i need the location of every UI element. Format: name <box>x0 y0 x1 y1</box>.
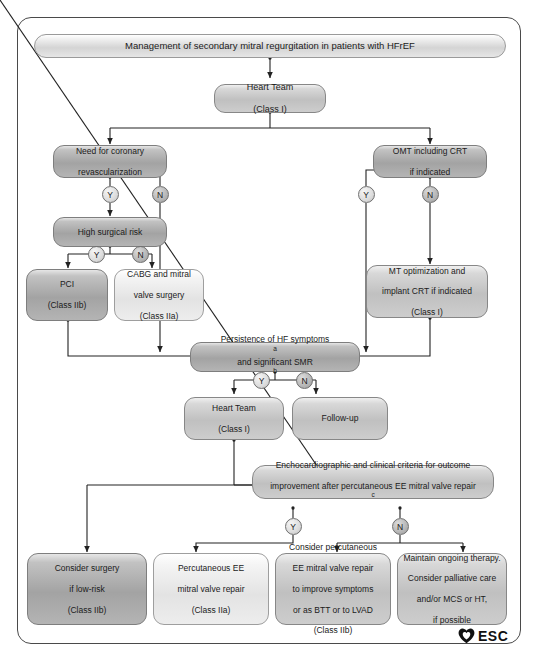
decision-persistence-yes: Y <box>253 372 270 389</box>
node-mt-optimization[interactable]: MT optimization and implant CRT if indic… <box>366 265 488 318</box>
node-consider-surgery-text: Consider surgery if low-risk (Class IIb) <box>32 563 142 615</box>
decision-risk-yes: Y <box>88 246 105 263</box>
node-persistence-hf-symptoms[interactable]: Persistence of HF symptomsa and signific… <box>190 342 360 372</box>
footnote-marker-a: a <box>273 345 277 352</box>
decision-omt-no: N <box>422 186 439 203</box>
decision-echo-no: N <box>392 518 409 535</box>
node-follow-up-text: Follow-up <box>297 413 383 423</box>
node-maintain-therapy[interactable]: Maintain ongoing therapy. Consider palli… <box>397 553 507 625</box>
node-heart-team-top[interactable]: Heart Team (Class I) <box>214 84 326 113</box>
node-percutaneous-repair[interactable]: Percutaneous EE mitral valve repair (Cla… <box>153 553 269 625</box>
figure-title-text: Management of secondary mitral regurgita… <box>39 40 501 52</box>
node-need-revascularization-text: Need for coronary revascularization <box>58 146 162 177</box>
heart-icon <box>458 628 475 644</box>
node-consider-percutaneous-repair[interactable]: Consider percutaneous EE mitral valve re… <box>275 553 391 625</box>
esc-logo-text: ESC <box>478 628 508 644</box>
decision-omt-yes: Y <box>358 186 375 203</box>
node-omt-crt[interactable]: OMT including CRT if indicated <box>373 145 487 178</box>
node-pci[interactable]: PCI (Class IIb) <box>26 269 108 321</box>
decision-risk-no: N <box>132 246 149 263</box>
node-heart-team-top-text: Heart Team (Class I) <box>219 82 321 115</box>
node-need-revascularization[interactable]: Need for coronary revascularization <box>53 145 167 178</box>
node-heart-team-2[interactable]: Heart Team (Class I) <box>184 397 284 440</box>
esc-logo: ESC <box>458 628 508 644</box>
node-persistence-hf-symptoms-text: Persistence of HF symptomsa and signific… <box>195 334 355 379</box>
node-mt-optimization-text: MT optimization and implant CRT if indic… <box>371 266 483 318</box>
node-echo-criteria-text: Enchocardiographic and clinical criteria… <box>257 460 489 503</box>
node-maintain-therapy-text: Maintain ongoing therapy. Consider palli… <box>402 553 502 626</box>
node-cabg-mitral-surgery-text: CABG and mitral valve surgery (Class IIa… <box>119 269 199 321</box>
node-omt-crt-text: OMT including CRT if indicated <box>378 146 482 177</box>
node-echo-criteria[interactable]: Enchocardiographic and clinical criteria… <box>252 465 494 499</box>
node-high-surgical-risk-text: High surgical risk <box>58 227 162 237</box>
footnote-marker-c: c <box>371 491 374 498</box>
node-heart-team-2-text: Heart Team (Class I) <box>189 403 279 434</box>
footnote-marker-b: b <box>273 367 277 374</box>
node-pci-text: PCI (Class IIb) <box>31 279 103 310</box>
node-consider-percutaneous-repair-text: Consider percutaneous EE mitral valve re… <box>280 542 386 635</box>
node-follow-up[interactable]: Follow-up <box>292 397 388 440</box>
decision-revasc-yes: Y <box>102 186 119 203</box>
decision-persistence-no: N <box>296 372 313 389</box>
node-consider-surgery[interactable]: Consider surgery if low-risk (Class IIb) <box>27 553 147 625</box>
node-high-surgical-risk[interactable]: High surgical risk <box>53 217 167 247</box>
node-cabg-mitral-surgery[interactable]: CABG and mitral valve surgery (Class IIa… <box>114 269 204 321</box>
figure-title: Management of secondary mitral regurgita… <box>34 34 506 58</box>
decision-echo-yes: Y <box>285 518 302 535</box>
decision-revasc-no: N <box>152 186 169 203</box>
node-percutaneous-repair-text: Percutaneous EE mitral valve repair (Cla… <box>158 563 264 615</box>
